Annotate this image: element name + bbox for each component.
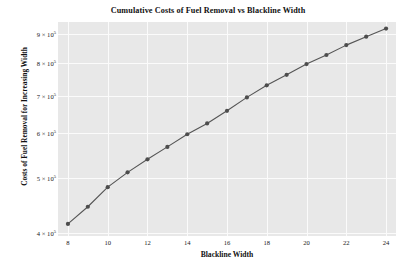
- x-tick-label: 20: [303, 239, 310, 246]
- x-tick-label: 10: [104, 239, 111, 246]
- data-point-marker: [225, 109, 229, 113]
- data-point-marker: [125, 170, 129, 174]
- x-tick-label: 8: [66, 239, 69, 246]
- y-axis-label: Costs of Fuel Removal for Increasing Wid…: [20, 17, 29, 217]
- plot-area: [58, 22, 396, 236]
- x-tick-label: 12: [144, 239, 151, 246]
- x-tick-label: 16: [224, 239, 231, 246]
- data-point-marker: [66, 222, 70, 226]
- data-point-marker: [185, 132, 189, 136]
- y-tick-label: 8 × 105: [37, 59, 56, 67]
- y-tick-label: 5 × 105: [37, 174, 56, 182]
- x-tick-label: 14: [184, 239, 191, 246]
- data-point-marker: [384, 26, 388, 30]
- data-point-marker: [344, 43, 348, 47]
- y-tick-label: 9 × 105: [37, 30, 56, 38]
- chart-figure: Cumulative Costs of Fuel Removal vs Blac…: [0, 0, 416, 272]
- y-tick-label: 6 × 105: [37, 129, 56, 137]
- data-point-marker: [106, 185, 110, 189]
- data-point-marker: [86, 205, 90, 209]
- data-point-marker: [285, 73, 289, 77]
- x-tick-label: 24: [383, 239, 390, 246]
- data-point-marker: [245, 95, 249, 99]
- series-line: [68, 29, 386, 224]
- data-point-marker: [364, 35, 368, 39]
- data-point-marker: [165, 145, 169, 149]
- x-tick-label: 22: [343, 239, 350, 246]
- data-point-marker: [145, 157, 149, 161]
- y-tick-label: 4 × 105: [37, 229, 56, 237]
- data-series-plot: [58, 22, 396, 236]
- chart-title: Cumulative Costs of Fuel Removal vs Blac…: [0, 6, 416, 15]
- data-point-marker: [265, 83, 269, 87]
- data-point-marker: [304, 62, 308, 66]
- series-markers: [66, 26, 388, 226]
- x-tick-label: 18: [263, 239, 270, 246]
- data-point-marker: [205, 121, 209, 125]
- x-axis-label: Blackline Width: [58, 250, 396, 259]
- data-point-marker: [324, 53, 328, 57]
- y-tick-label: 7 × 105: [37, 92, 56, 100]
